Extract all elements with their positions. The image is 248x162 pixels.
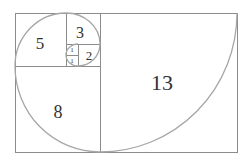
fibonacci-spiral-diagram: 13 8 5 3 2 1 1: [0, 0, 248, 162]
label-2: 2: [86, 48, 93, 63]
label-1-top: 1: [70, 46, 74, 54]
label-5: 5: [36, 34, 45, 53]
label-13: 13: [151, 70, 173, 95]
label-3: 3: [76, 24, 84, 41]
label-1-bottom: 1: [70, 57, 74, 65]
label-8: 8: [54, 102, 63, 122]
golden-spiral: [15, 13, 237, 152]
